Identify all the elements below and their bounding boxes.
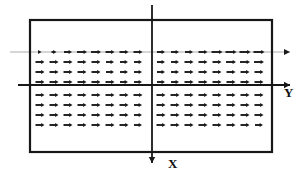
axis-label-y: Y xyxy=(284,85,294,100)
figure-canvas: X Y xyxy=(0,0,306,175)
axis-label-x: X xyxy=(168,156,178,171)
vector-field-figure: X Y xyxy=(0,0,306,175)
figure-background xyxy=(0,0,306,175)
